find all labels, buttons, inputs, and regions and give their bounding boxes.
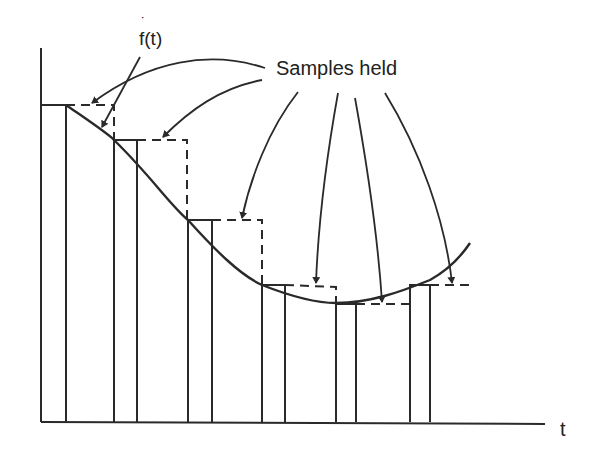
arrow-to-hold-2 xyxy=(163,80,262,137)
pulse-3 xyxy=(188,220,212,422)
held-levels xyxy=(66,105,470,304)
arrow-to-hold-4 xyxy=(316,93,338,283)
hold-2 xyxy=(137,140,187,220)
samples-held-arrows xyxy=(92,59,452,302)
arrow-to-hold-3 xyxy=(242,92,298,218)
curve-label: f(t) xyxy=(139,28,162,49)
signal-curve xyxy=(66,105,470,303)
sample-and-hold-diagram: t f(t) ˙ Samples held xyxy=(0,0,595,465)
samples-held-label: Samples held xyxy=(276,57,397,79)
pulse-5 xyxy=(336,304,356,422)
x-axis-label: t xyxy=(560,418,566,440)
arrow-to-hold-5 xyxy=(355,98,382,302)
curve-label-accent: ˙ xyxy=(141,15,146,31)
pulse-1 xyxy=(41,105,66,422)
pulse-4 xyxy=(262,285,285,422)
axes xyxy=(41,48,545,424)
pulse-2 xyxy=(114,140,137,422)
x-axis xyxy=(41,422,545,424)
pulse-6 xyxy=(410,285,430,422)
arrow-to-hold-6 xyxy=(385,93,452,283)
sample-pulses xyxy=(41,105,430,422)
